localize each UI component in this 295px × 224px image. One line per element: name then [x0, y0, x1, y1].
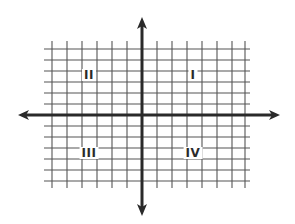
- quadrant-4-label: IV: [184, 147, 203, 159]
- quadrant-1-label: I: [189, 69, 198, 81]
- quadrant-2-label: II: [82, 69, 96, 81]
- coordinate-plane: [0, 0, 295, 224]
- axes: [18, 17, 280, 216]
- quadrant-3-label: III: [80, 147, 99, 159]
